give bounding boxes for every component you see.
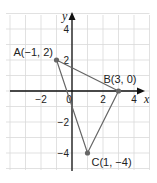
point-label-b: B(3, 0) bbox=[104, 73, 137, 85]
y-axis-label: y bbox=[61, 9, 68, 23]
x-tick-label: 2 bbox=[100, 94, 106, 105]
coordinate-plane: x y −202442−2−4 A(−1, 2)B(3, 0)C(1, −4) bbox=[0, 0, 157, 183]
point-a bbox=[54, 57, 59, 62]
point-c bbox=[85, 150, 90, 155]
point-b bbox=[116, 88, 121, 93]
x-tick-label: 4 bbox=[131, 94, 137, 105]
y-tick-label: −2 bbox=[58, 117, 70, 128]
y-tick-label: −4 bbox=[58, 148, 70, 159]
grid bbox=[6, 14, 150, 171]
y-tick-label: 4 bbox=[63, 24, 69, 35]
point-label-a: A(−1, 2) bbox=[14, 46, 53, 58]
axes: x y bbox=[10, 9, 150, 171]
points: A(−1, 2)B(3, 0)C(1, −4) bbox=[14, 46, 137, 168]
x-axis-label: x bbox=[143, 92, 150, 106]
point-label-c: C(1, −4) bbox=[92, 156, 132, 168]
x-tick-label: −2 bbox=[35, 94, 47, 105]
